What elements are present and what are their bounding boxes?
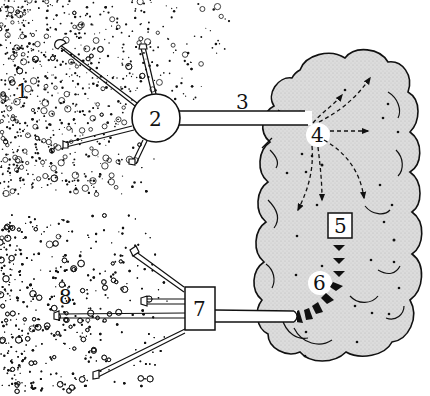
diagram: 1 2 3 4 5 6 7 8 [0,0,430,396]
label-3: 3 [236,90,249,114]
label-6: 6 [313,271,326,295]
diagram-canvas: 1 2 3 4 5 6 7 8 [0,0,430,396]
outlet-branches [58,251,185,377]
label-7: 7 [193,297,206,321]
label-1: 1 [16,79,29,103]
label-8: 8 [59,285,72,309]
speckled-region-1 [0,0,230,197]
label-2: 2 [149,107,162,131]
label-4: 4 [311,123,324,147]
outlet-tube [215,310,297,322]
label-5: 5 [334,214,347,238]
branch-tips-2 [55,40,147,165]
